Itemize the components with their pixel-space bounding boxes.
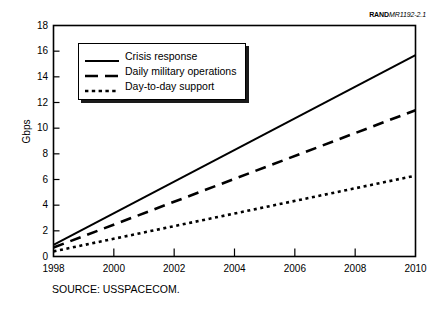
legend-label: Crisis response [125,51,197,62]
legend-swatch-dotted-icon [85,82,119,92]
source-caption: SOURCE: USSPACECOM. [52,283,180,295]
chart-legend: Crisis responseDaily military operations… [78,43,246,100]
x-tick-label: 2000 [94,264,134,274]
x-tick-label: 2006 [275,264,315,274]
legend-item: Crisis response [85,49,236,64]
x-tick-label: 2010 [396,264,435,274]
x-tick-label: 2002 [154,264,194,274]
x-tick-label: 1998 [34,264,74,274]
legend-swatch-solid-icon [85,52,119,62]
x-tick-label: 2004 [215,264,255,274]
legend-label: Day-to-day support [125,81,214,92]
x-tick-label: 2008 [335,264,375,274]
legend-item: Day-to-day support [85,79,236,94]
figure-chart: RANDMR1192-2.1 Gbps 024681012141618 1998… [0,0,435,311]
legend-label: Daily military operations [125,66,236,77]
plot-area: Gbps 024681012141618 1998200020022004200… [0,0,435,311]
legend-item: Daily military operations [85,64,236,79]
legend-swatch-dashed-icon [85,67,119,77]
